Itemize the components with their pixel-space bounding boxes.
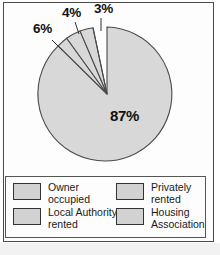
legend-swatch-privately-rented — [116, 183, 144, 200]
pie-chart-figure: 87% 6% 4% 3% Owner occupied Privately re… — [0, 0, 220, 255]
pie-chart-area: 87% 6% 4% 3% — [0, 0, 211, 175]
legend-label-line2: occupied — [48, 194, 90, 206]
legend-label-privately-rented: Privately rented — [151, 182, 191, 205]
pie-slice-owner-occupied — [38, 27, 172, 161]
legend-item-owner-occupied: Owner occupied — [13, 182, 90, 205]
legend-label-line1: Privately — [151, 181, 191, 193]
chart-legend: Owner occupied Privately rented Local Au… — [5, 176, 206, 238]
slice-label-housing-association: 3% — [94, 1, 113, 16]
page-edge-shadow — [0, 243, 220, 255]
legend-swatch-owner-occupied — [13, 183, 41, 200]
legend-label-line1: Housing — [151, 206, 190, 218]
legend-label-owner-occupied: Owner occupied — [48, 182, 90, 205]
legend-item-privately-rented: Privately rented — [116, 182, 191, 205]
legend-label-line2: Association — [151, 219, 205, 231]
legend-label-local-authority-rented: Local Authority rented — [48, 207, 117, 230]
legend-swatch-local-authority-rented — [13, 208, 41, 225]
slice-label-privately-rented: 6% — [33, 21, 52, 36]
legend-swatch-housing-association — [116, 208, 144, 225]
legend-label-line1: Owner — [48, 181, 79, 193]
slice-label-owner-occupied: 87% — [110, 107, 139, 124]
slice-label-local-authority-rented: 4% — [62, 5, 81, 20]
legend-label-line1: Local Authority — [48, 206, 117, 218]
legend-item-housing-association: Housing Association — [116, 207, 205, 230]
legend-label-line2: rented — [151, 194, 191, 206]
legend-label-housing-association: Housing Association — [151, 207, 205, 230]
pie-svg — [0, 0, 211, 175]
legend-item-local-authority-rented: Local Authority rented — [13, 207, 117, 230]
legend-label-line2: rented — [48, 219, 117, 231]
